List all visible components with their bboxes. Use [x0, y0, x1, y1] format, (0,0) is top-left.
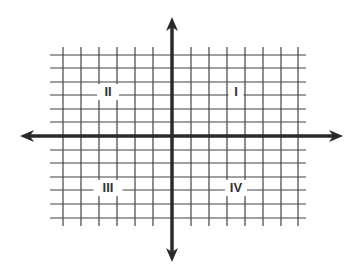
quadrant-label-ii: II	[104, 84, 111, 99]
axes	[20, 17, 343, 262]
quadrant-label-iv: IV	[230, 180, 243, 195]
quadrant-label-iii: III	[103, 180, 114, 195]
coordinate-plane: IIIIIIIV	[0, 0, 360, 275]
quadrant-label-i: I	[234, 84, 238, 99]
